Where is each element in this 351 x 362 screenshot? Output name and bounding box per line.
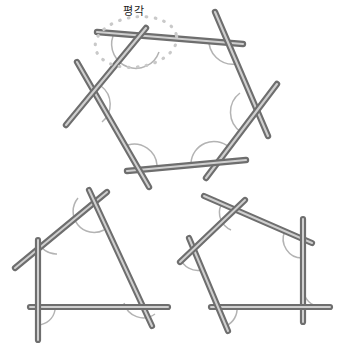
rod [215,12,268,136]
angle-arc [230,93,241,132]
figure-quadrilateral[interactable] [15,190,168,340]
rod [127,160,246,171]
straight-angle-label: 평각 [123,2,144,18]
figure-pentagon[interactable] [180,196,330,331]
diagram-canvas: 평각 [0,0,351,362]
hexagon-rods [66,12,277,187]
pentagon-rods [180,196,330,331]
rod [180,200,245,262]
rod [77,62,149,187]
quadrilateral-rods [15,190,168,340]
geometry-figure-svg [0,0,351,362]
figure-hexagon[interactable] [66,12,277,187]
